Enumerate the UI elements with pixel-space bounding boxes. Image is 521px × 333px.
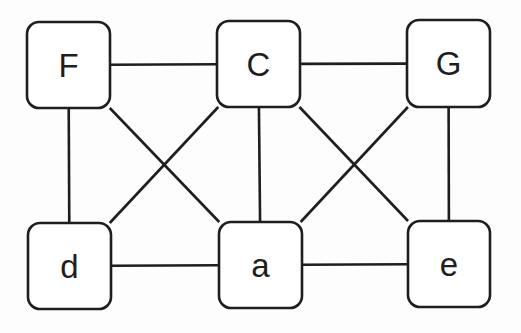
- node-F: F: [27, 22, 110, 108]
- edge-a-e: [302, 264, 408, 265]
- node-label: a: [251, 247, 270, 284]
- node-label: F: [58, 47, 78, 84]
- graph-diagram: FCGdae: [0, 0, 521, 333]
- edge-F-C: [110, 64, 217, 65]
- node-e: e: [408, 221, 490, 307]
- node-label: e: [440, 246, 458, 283]
- edge-d-a: [111, 265, 219, 266]
- node-G: G: [407, 20, 490, 107]
- edge-C-a: [259, 107, 260, 222]
- edge-F-d: [69, 108, 70, 223]
- node-label: C: [247, 46, 271, 83]
- node-d: d: [28, 223, 111, 309]
- node-label: d: [60, 248, 78, 285]
- node-C: C: [217, 21, 300, 107]
- node-a: a: [219, 222, 302, 308]
- node-label: G: [436, 45, 462, 82]
